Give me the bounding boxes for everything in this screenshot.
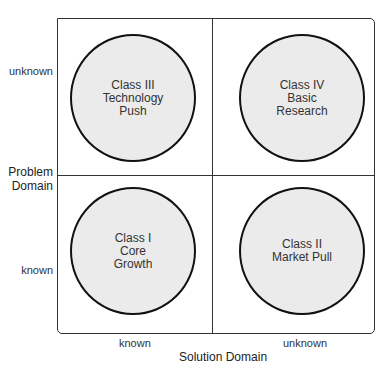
y-axis-title-line: Problem	[8, 165, 53, 179]
quadrant-label-line: Basic	[276, 92, 327, 105]
quadrant-class-ii: Class II Market Pull	[239, 187, 365, 315]
quadrant-label-line: Technology	[103, 92, 164, 105]
quadrant-label-line: Core	[114, 245, 153, 258]
y-tick-known: known	[21, 264, 53, 276]
quadrant-label-line: Research	[276, 105, 327, 118]
y-axis-title-line: Domain	[8, 179, 53, 193]
x-tick-known: known	[119, 337, 151, 349]
quadrant-label-line: Growth	[114, 258, 153, 271]
horizontal-divider	[57, 175, 375, 176]
quadrant-class-i: Class I Core Growth	[70, 187, 196, 315]
x-tick-unknown: unknown	[283, 337, 327, 349]
quadrant-label-line: Push	[103, 105, 164, 118]
quadrant-class-iv: Class IV Basic Research	[239, 34, 365, 162]
quadrant-label-line: Class III	[103, 79, 164, 92]
y-tick-unknown: unknown	[9, 65, 53, 77]
quadrant-label-line: Class I	[114, 232, 153, 245]
quadrant-class-iii: Class III Technology Push	[70, 34, 196, 162]
y-axis-title: Problem Domain	[8, 165, 53, 193]
quadrant-label-line: Market Pull	[272, 251, 332, 264]
quadrant-label-line: Class IV	[276, 79, 327, 92]
vertical-divider	[212, 18, 213, 334]
x-axis-title: Solution Domain	[179, 350, 267, 364]
